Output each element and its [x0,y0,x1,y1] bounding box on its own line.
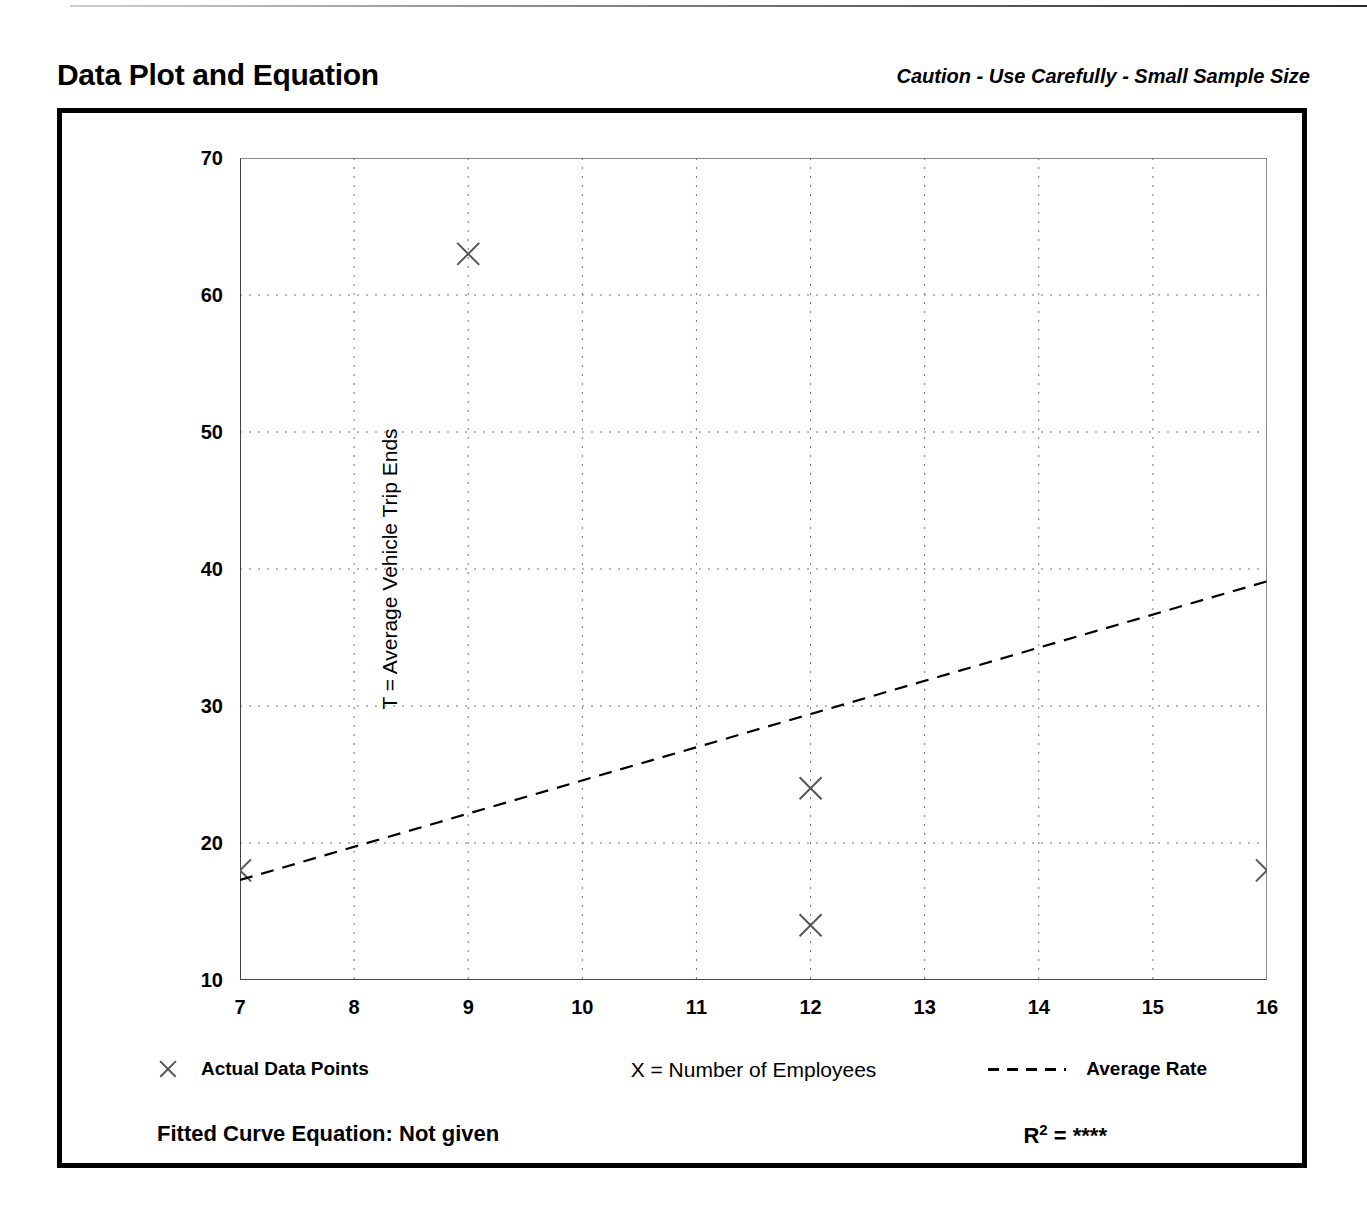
r-squared-value: R2 = **** [1023,1121,1107,1149]
y-tick-label: 30 [163,695,223,718]
legend-item-data-points: Actual Data Points [157,1058,369,1080]
equation-row: Fitted Curve Equation: Not given R2 = **… [62,1121,1302,1161]
page-top-rule [70,5,1367,7]
legend-label-average-rate: Average Rate [1086,1058,1207,1080]
y-tick-label: 60 [163,284,223,307]
x-tick-label: 9 [438,996,498,1019]
x-tick-label: 15 [1123,996,1183,1019]
x-tick-label: 13 [895,996,955,1019]
plot-area: T = Average Vehicle Trip Ends X = Number… [240,158,1267,980]
y-tick-label: 70 [163,147,223,170]
legend-item-average-rate: Average Rate [988,1058,1207,1080]
legend-label-data-points: Actual Data Points [201,1058,369,1080]
x-tick-label: 8 [324,996,384,1019]
caution-note: Caution - Use Carefully - Small Sample S… [897,65,1310,88]
x-tick-label: 10 [552,996,612,1019]
y-tick-label: 20 [163,832,223,855]
page-title: Data Plot and Equation [57,58,379,92]
y-tick-label: 10 [163,969,223,992]
x-tick-label: 14 [1009,996,1069,1019]
r-squared-exponent: 2 [1039,1121,1047,1138]
dashed-line-icon [988,1068,1066,1071]
x-tick-label: 12 [781,996,841,1019]
chart-legend: Actual Data Points Average Rate [62,1058,1302,1092]
y-tick-label: 50 [163,421,223,444]
figure-page: Data Plot and Equation Caution - Use Car… [0,0,1367,1211]
r-squared-number: = **** [1054,1123,1107,1148]
x-marker-icon [157,1058,179,1080]
x-tick-label: 11 [666,996,726,1019]
y-tick-label: 40 [163,558,223,581]
data-point-marker [1256,859,1267,881]
r-squared-symbol: R [1023,1123,1039,1148]
fitted-curve-equation: Fitted Curve Equation: Not given [157,1121,499,1147]
data-point-marker [457,243,479,265]
figure-box: T = Average Vehicle Trip Ends X = Number… [57,108,1307,1168]
x-tick-label: 7 [210,996,270,1019]
scatter-plot-svg [240,158,1267,980]
x-tick-label: 16 [1237,996,1297,1019]
header-row: Data Plot and Equation Caution - Use Car… [0,58,1367,100]
